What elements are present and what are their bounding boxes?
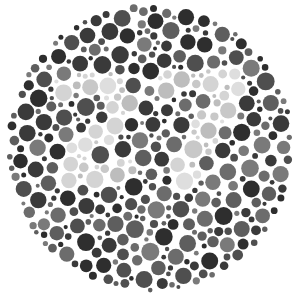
- figure-dot: [193, 171, 201, 179]
- ground-dot: [195, 191, 210, 206]
- ground-dot: [205, 175, 220, 190]
- ground-dot: [238, 239, 249, 250]
- figure-dot: [78, 138, 92, 152]
- ground-dot: [74, 25, 79, 30]
- ground-dot: [30, 90, 47, 107]
- ground-dot: [222, 60, 228, 66]
- ground-dot: [168, 219, 179, 230]
- ground-dot: [193, 277, 200, 284]
- ground-dot: [31, 64, 40, 73]
- ground-dot: [173, 193, 180, 200]
- figure-dot: [220, 119, 224, 123]
- ground-dot: [132, 255, 142, 265]
- ground-dot: [120, 195, 124, 199]
- ground-dot: [275, 89, 281, 95]
- ground-dot: [278, 184, 286, 192]
- ground-dot: [141, 195, 150, 204]
- ground-dot: [207, 236, 218, 247]
- ground-dot: [8, 122, 17, 131]
- ground-dot: [57, 67, 71, 81]
- ground-dot: [284, 156, 292, 164]
- ground-dot: [81, 47, 87, 53]
- figure-dot: [191, 120, 200, 129]
- ground-dot: [101, 187, 117, 203]
- ground-dot: [50, 207, 65, 222]
- figure-dot: [220, 102, 236, 118]
- ground-dot: [192, 230, 197, 235]
- ground-dot: [226, 192, 242, 208]
- ground-dot: [126, 78, 141, 93]
- ground-dot: [251, 198, 261, 208]
- ground-dot: [262, 64, 269, 71]
- ground-dot: [255, 208, 270, 223]
- ground-dot: [259, 171, 270, 182]
- figure-dot: [82, 156, 86, 160]
- ground-dot: [28, 162, 44, 178]
- ground-dot: [153, 47, 157, 51]
- ground-dot: [48, 202, 53, 207]
- ground-dot: [117, 248, 129, 260]
- ground-dot: [114, 281, 119, 286]
- figure-dot: [197, 110, 206, 119]
- ground-dot: [45, 210, 49, 214]
- ground-dot: [215, 207, 233, 225]
- ground-dot: [94, 95, 101, 102]
- figure-dot: [128, 166, 136, 174]
- ground-dot: [265, 155, 277, 167]
- ground-dot: [104, 47, 109, 52]
- ground-dot: [273, 115, 290, 132]
- ground-dot: [166, 136, 182, 152]
- ground-dot: [236, 38, 247, 49]
- ground-dot: [189, 114, 194, 119]
- figure-dot: [225, 85, 230, 90]
- ground-dot: [240, 176, 246, 182]
- ground-dot: [94, 192, 100, 198]
- ground-dot: [55, 188, 60, 193]
- ground-dot: [105, 231, 110, 236]
- ground-dot: [102, 238, 117, 253]
- ground-dot: [98, 38, 105, 45]
- ground-dot: [96, 112, 107, 123]
- ground-dot: [220, 261, 229, 270]
- ground-dot: [257, 99, 261, 103]
- ground-dot: [217, 191, 222, 196]
- ground-dot: [58, 242, 63, 247]
- ground-dot: [155, 96, 160, 101]
- ground-dot: [150, 32, 157, 39]
- ground-dot: [163, 167, 170, 174]
- ground-dot: [149, 51, 155, 57]
- ground-dot: [207, 55, 220, 68]
- ground-dot: [148, 13, 164, 29]
- ground-dot: [178, 9, 194, 25]
- ground-dot: [21, 173, 26, 178]
- ground-dot: [278, 108, 284, 114]
- ground-dot: [18, 104, 35, 121]
- ground-dot: [85, 119, 90, 124]
- ground-dot: [233, 32, 238, 37]
- ground-dot: [10, 136, 20, 146]
- figure-dot: [231, 82, 245, 96]
- ground-dot: [136, 271, 153, 288]
- ground-dot: [121, 279, 130, 288]
- ground-dot: [262, 202, 266, 206]
- ground-dot: [86, 219, 92, 225]
- ground-dot: [162, 221, 167, 226]
- ground-dot: [241, 208, 250, 217]
- figure-dot: [77, 73, 81, 77]
- ground-dot: [126, 135, 131, 140]
- ground-dot: [50, 96, 54, 100]
- ground-dot: [192, 208, 197, 213]
- ground-dot: [59, 247, 74, 262]
- ground-dot: [147, 229, 154, 236]
- ground-dot: [247, 81, 252, 86]
- ground-dot: [168, 265, 173, 270]
- figure-dot: [176, 173, 193, 190]
- ground-dot: [138, 171, 143, 176]
- ground-dot: [157, 53, 172, 68]
- ground-dot: [64, 225, 68, 229]
- ground-dot: [42, 156, 47, 161]
- figure-dot: [73, 81, 81, 89]
- ground-dot: [208, 228, 213, 233]
- ground-dot: [241, 75, 245, 79]
- ground-dot: [143, 179, 148, 184]
